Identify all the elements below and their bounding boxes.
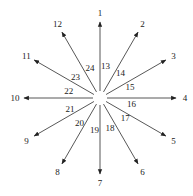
arrow-label-10: 10	[11, 93, 21, 103]
arrow-label-2: 2	[140, 19, 145, 29]
inner-label-19: 19	[90, 125, 100, 135]
arrow-label-11: 11	[22, 51, 31, 61]
radial-arrow-diagram: 123456789101112 131415161718192021222324	[0, 0, 193, 196]
inner-label-21: 21	[65, 104, 74, 114]
arrow-label-9: 9	[24, 136, 29, 146]
inner-label-16: 16	[127, 99, 137, 109]
arrow-label-8: 8	[55, 167, 60, 177]
inner-label-14: 14	[116, 68, 126, 78]
inner-label-22: 22	[64, 86, 73, 96]
arrow-label-12: 12	[53, 19, 62, 29]
inner-label-18: 18	[105, 123, 115, 133]
arrow-label-6: 6	[140, 167, 145, 177]
arrow-label-3: 3	[171, 51, 176, 61]
arrow-label-7: 7	[98, 178, 103, 188]
arrow-3	[106, 60, 166, 95]
inner-label-24: 24	[86, 63, 96, 73]
inner-label-13: 13	[101, 61, 111, 71]
arrow-label-4: 4	[183, 93, 188, 103]
inner-label-15: 15	[126, 82, 136, 92]
inner-label-20: 20	[75, 118, 85, 128]
inner-label-17: 17	[121, 113, 131, 123]
arrow-9	[34, 102, 94, 137]
arrow-group	[24, 22, 176, 174]
arrow-label-5: 5	[171, 136, 176, 146]
arrow-label-1: 1	[98, 8, 103, 18]
inner-label-23: 23	[71, 72, 81, 82]
